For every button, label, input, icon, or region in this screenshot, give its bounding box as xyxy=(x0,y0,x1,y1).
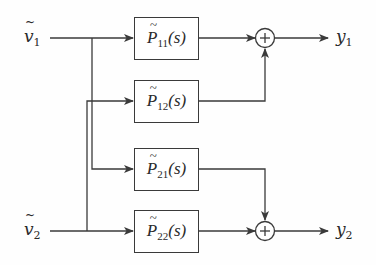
input-v1-symbol: v xyxy=(24,26,34,46)
block-p11-sub: 11 xyxy=(157,37,168,49)
block-p11-symbol: P xyxy=(147,28,157,47)
block-p21-sub: 21 xyxy=(157,168,168,180)
output-y2-symbol: y xyxy=(336,219,346,239)
input-label-v1: v1 xyxy=(24,28,41,48)
block-p12-symbol: P xyxy=(147,91,157,110)
block-p21: P21(s) xyxy=(134,148,199,191)
block-p12: P12(s) xyxy=(134,80,199,123)
block-p22-sub: 22 xyxy=(157,230,168,242)
summing-junction-2 xyxy=(256,222,275,241)
input-v2-symbol: v xyxy=(24,219,34,239)
block-p12-sub: 12 xyxy=(157,100,168,112)
output-label-y2: y2 xyxy=(336,221,353,241)
output-y2-sub: 2 xyxy=(346,229,353,242)
block-p21-symbol: P xyxy=(147,159,157,178)
input-label-v2: v2 xyxy=(24,221,41,241)
output-y1-symbol: y xyxy=(336,26,346,46)
block-p11-arg: (s) xyxy=(168,28,186,47)
block-p12-arg: (s) xyxy=(168,91,186,110)
block-p22: P22(s) xyxy=(134,210,199,253)
input-v2-sub: 2 xyxy=(34,229,41,242)
input-v1-sub: 1 xyxy=(34,36,41,49)
summing-junction-1 xyxy=(256,29,275,48)
block-diagram: v1 v2 y1 y2 P11(s) P12(s) P21(s) P22(s) xyxy=(0,0,376,265)
wire-v2-p12 xyxy=(87,101,133,231)
block-p22-arg: (s) xyxy=(168,221,186,240)
output-label-y1: y1 xyxy=(336,28,353,48)
wire-v1-p21 xyxy=(92,38,133,169)
wire-p21-sum2 xyxy=(198,169,265,220)
wire-p12-sum1 xyxy=(198,49,265,101)
block-p22-symbol: P xyxy=(147,221,157,240)
block-p11: P11(s) xyxy=(134,17,199,60)
output-y1-sub: 1 xyxy=(346,36,353,49)
block-p21-arg: (s) xyxy=(168,159,186,178)
